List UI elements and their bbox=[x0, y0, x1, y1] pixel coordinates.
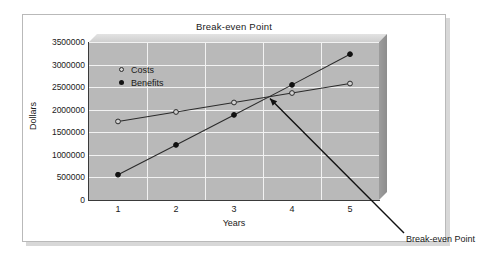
series-layer bbox=[23, 15, 445, 241]
data-point-benefits bbox=[348, 52, 353, 57]
chart-card: Break-even Point 05000001000000150000020… bbox=[22, 14, 446, 242]
data-point-benefits bbox=[174, 143, 179, 148]
data-point-costs bbox=[348, 81, 353, 86]
data-point-costs bbox=[116, 119, 121, 124]
annotation-leader-line bbox=[270, 98, 404, 233]
break-even-annotation-label: Break-even Point bbox=[406, 234, 475, 244]
data-point-costs bbox=[174, 110, 179, 115]
data-point-costs bbox=[232, 100, 237, 105]
data-point-benefits bbox=[232, 113, 237, 118]
data-point-benefits bbox=[116, 172, 121, 177]
break-even-chart: Break-even Point 05000001000000150000020… bbox=[23, 15, 445, 241]
data-point-costs bbox=[290, 91, 295, 96]
data-point-benefits bbox=[290, 82, 295, 87]
